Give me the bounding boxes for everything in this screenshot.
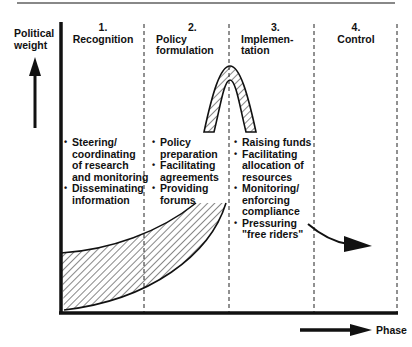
phase-3-header: 3. Implemen- tation — [241, 22, 316, 57]
activity-item: Disseminating information — [63, 183, 148, 206]
y-arrow-head — [29, 57, 41, 76]
y-axis-label: Political weight — [14, 28, 54, 51]
activity-item: Facilitating allocation of resources — [233, 149, 311, 184]
phase-1-header: 1. Recognition — [62, 22, 144, 45]
declining-arrowhead — [344, 236, 372, 252]
phase-3-activities: Raising funds Facilitating allocation of… — [233, 137, 311, 241]
x-arrow-head — [350, 324, 372, 336]
activity-item: Policy preparation — [151, 137, 219, 160]
activity-item: Monitoring/ enforcing compliance — [233, 183, 311, 218]
phase-4-header: 4. Control — [315, 22, 397, 45]
phase-2-header: 2. Policy formulation — [156, 22, 231, 57]
activity-item: Steering/ coordinating of research and m… — [63, 137, 148, 183]
activity-item: Providing forums — [151, 183, 219, 206]
activity-item: Raising funds — [233, 137, 311, 149]
x-axis-label: Phase — [376, 325, 407, 337]
phase-2-activities: Policy preparation Facilitating agreemen… — [151, 137, 219, 206]
phase-1-activities: Steering/ coordinating of research and m… — [63, 137, 148, 206]
weight-band-peak — [204, 66, 256, 132]
activity-item: Pressuring "free riders" — [233, 218, 311, 241]
activity-item: Facilitating agreements — [151, 160, 219, 183]
